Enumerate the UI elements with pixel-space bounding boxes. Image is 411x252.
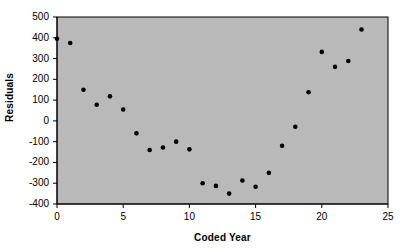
data-point bbox=[293, 124, 298, 129]
data-point bbox=[359, 27, 364, 32]
data-point bbox=[121, 107, 126, 112]
data-point bbox=[134, 131, 139, 136]
data-point bbox=[253, 184, 258, 189]
data-point bbox=[214, 184, 219, 189]
data-point bbox=[280, 144, 285, 149]
data-point bbox=[161, 145, 166, 150]
data-point bbox=[240, 178, 245, 183]
data-point bbox=[174, 139, 179, 144]
data-point bbox=[68, 41, 73, 46]
data-point bbox=[346, 59, 351, 64]
data-point bbox=[227, 191, 232, 196]
data-point bbox=[108, 94, 113, 99]
data-point bbox=[187, 147, 192, 152]
data-point bbox=[267, 171, 272, 176]
data-point bbox=[94, 102, 99, 107]
data-point bbox=[55, 37, 60, 42]
data-point bbox=[200, 181, 205, 186]
plot-area bbox=[0, 0, 411, 252]
residuals-scatter-chart: Residuals Coded Year 5004003002001000-10… bbox=[0, 0, 411, 252]
plot-background bbox=[57, 17, 388, 204]
data-point bbox=[81, 87, 86, 92]
data-point bbox=[306, 90, 311, 95]
data-point bbox=[320, 50, 325, 55]
data-point bbox=[333, 65, 338, 70]
data-point bbox=[147, 148, 152, 153]
